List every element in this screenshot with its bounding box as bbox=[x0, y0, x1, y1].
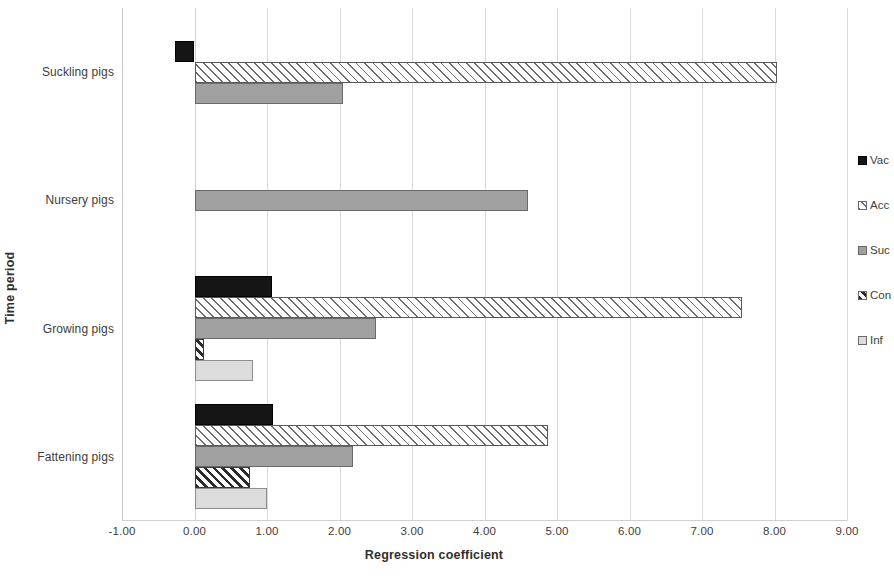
legend-swatch-acc-icon bbox=[858, 201, 867, 210]
bar-suc-growing-pigs bbox=[195, 318, 376, 339]
gridline bbox=[630, 8, 631, 521]
x-tick-label: 4.00 bbox=[455, 525, 515, 537]
gridline bbox=[775, 8, 776, 521]
x-tick-label: 6.00 bbox=[600, 525, 660, 537]
legend-label: Inf bbox=[870, 334, 883, 346]
bar-suc-suckling-pigs bbox=[195, 83, 344, 104]
y-tick-label: Growing pigs bbox=[0, 322, 114, 336]
bar-acc-growing-pigs bbox=[195, 297, 742, 318]
legend-label: Suc bbox=[870, 244, 890, 256]
x-tick-label: 0.00 bbox=[165, 525, 225, 537]
legend-label: Con bbox=[870, 289, 891, 301]
bar-vac-suckling-pigs bbox=[175, 41, 195, 62]
legend-item-inf[interactable]: Inf bbox=[858, 332, 894, 348]
legend-item-vac[interactable]: Vac bbox=[858, 152, 894, 168]
x-axis-line bbox=[122, 520, 847, 521]
y-tick-label: Nursery pigs bbox=[0, 193, 114, 207]
legend-swatch-vac-icon bbox=[858, 156, 867, 165]
y-tick-label: Fattening pigs bbox=[0, 450, 114, 464]
plot-area: Suckling pigsNursery pigsGrowing pigsFat… bbox=[122, 8, 847, 521]
bar-vac-fattening-pigs bbox=[195, 404, 273, 425]
bar-acc-fattening-pigs bbox=[195, 425, 549, 446]
chart-legend: VacAccSucConInf bbox=[858, 152, 894, 377]
y-axis-tick-labels: Suckling pigsNursery pigsGrowing pigsFat… bbox=[0, 8, 114, 521]
legend-swatch-suc-icon bbox=[858, 246, 867, 255]
bar-suc-nursery-pigs bbox=[195, 190, 529, 211]
bar-acc-suckling-pigs bbox=[195, 62, 777, 83]
bar-inf-growing-pigs bbox=[195, 360, 254, 381]
bar-suc-fattening-pigs bbox=[195, 446, 353, 467]
x-axis-title-text: Regression coefficient bbox=[365, 548, 503, 562]
gridline bbox=[702, 8, 703, 521]
x-axis-title: Regression coefficient bbox=[0, 548, 894, 562]
y-tick-label: Suckling pigs bbox=[0, 65, 114, 79]
gridline bbox=[847, 8, 848, 521]
x-tick-label: 9.00 bbox=[817, 525, 877, 537]
x-tick-label: 3.00 bbox=[382, 525, 442, 537]
bar-vac-growing-pigs bbox=[195, 276, 273, 297]
x-tick-label: 7.00 bbox=[672, 525, 732, 537]
bar-con-growing-pigs bbox=[195, 339, 204, 360]
x-tick-label: 8.00 bbox=[745, 525, 805, 537]
bar-con-fattening-pigs bbox=[195, 467, 251, 488]
y-axis-line bbox=[122, 8, 123, 521]
legend-label: Acc bbox=[870, 199, 889, 211]
x-tick-label: -1.00 bbox=[92, 525, 152, 537]
legend-label: Vac bbox=[870, 154, 889, 166]
legend-swatch-inf-icon bbox=[858, 336, 867, 345]
legend-item-suc[interactable]: Suc bbox=[858, 242, 894, 258]
x-tick-label: 1.00 bbox=[237, 525, 297, 537]
legend-swatch-con-icon bbox=[858, 291, 867, 300]
bar-chart-figure: Time period Suckling pigsNursery pigsGro… bbox=[0, 0, 894, 576]
x-tick-label: 2.00 bbox=[310, 525, 370, 537]
x-tick-label: 5.00 bbox=[527, 525, 587, 537]
bar-inf-fattening-pigs bbox=[195, 488, 268, 509]
gridline bbox=[557, 8, 558, 521]
legend-item-con[interactable]: Con bbox=[858, 287, 894, 303]
legend-item-acc[interactable]: Acc bbox=[858, 197, 894, 213]
